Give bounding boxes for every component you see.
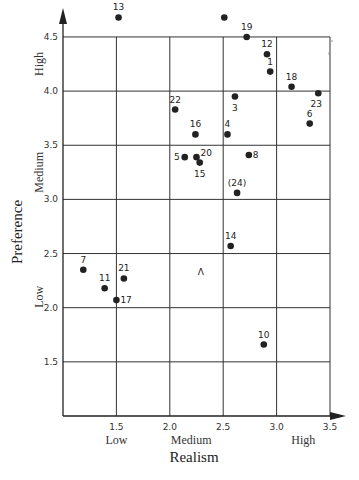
point-marker-icon — [113, 297, 120, 304]
data-point: 22 — [169, 95, 180, 113]
data-point: 5 — [174, 152, 188, 162]
point-label: 3 — [232, 103, 238, 113]
point-marker-icon — [232, 93, 239, 100]
point-marker-icon — [224, 131, 231, 138]
data-point: 15 — [194, 159, 205, 178]
y-tick-labels: 4.54.03.53.02.52.01.5 — [44, 32, 59, 367]
point-marker-icon — [101, 285, 108, 292]
point-marker-icon — [221, 14, 228, 21]
point-label: 5 — [174, 152, 180, 162]
point-label: 22 — [169, 95, 180, 105]
point-label: 10 — [258, 330, 270, 340]
data-point: 23 — [311, 90, 322, 109]
y-category-label: Low — [32, 286, 46, 308]
point-marker-icon — [243, 34, 250, 41]
point-marker-icon — [196, 159, 203, 166]
point-label: 4 — [225, 119, 231, 129]
point-marker-icon — [246, 152, 253, 159]
point-label: 12 — [261, 39, 272, 49]
data-point: 21 — [118, 263, 129, 281]
point-marker-icon — [80, 266, 87, 273]
point-label: 14 — [225, 231, 237, 241]
y-category-label: High — [32, 52, 46, 76]
scatter-chart: 1.52.02.53.03.5 4.54.03.53.02.52.01.5 Lo… — [0, 0, 359, 480]
point-marker-icon — [192, 131, 199, 138]
point-marker-icon — [181, 154, 188, 161]
point-marker-icon — [121, 275, 128, 282]
data-point: 1 — [267, 57, 274, 75]
y-axis-title: Preference — [9, 200, 25, 264]
data-point: 19 — [241, 22, 253, 40]
data-point: 7 — [80, 255, 87, 273]
y-tick-label: 2.5 — [44, 249, 58, 259]
point-marker-icon — [260, 341, 267, 348]
point-label: 19 — [241, 22, 253, 32]
data-point: 6 — [306, 109, 313, 127]
point-marker-icon — [234, 190, 241, 197]
data-point: 18 — [286, 72, 298, 90]
point-label: 1 — [267, 57, 273, 67]
point-label: 6 — [307, 109, 313, 119]
x-category-label: Low — [105, 433, 127, 447]
point-marker-icon — [172, 106, 179, 113]
x-tick-labels: 1.52.02.53.03.5 — [109, 422, 337, 432]
point-label: 20 — [201, 148, 213, 158]
data-point: 8 — [246, 150, 259, 160]
annotations: Λ — [198, 267, 205, 277]
point-label: 18 — [286, 72, 298, 82]
x-tick-label: 2.0 — [163, 422, 178, 432]
x-tick-label: 2.5 — [216, 422, 230, 432]
point-label: (24) — [228, 178, 246, 188]
point-marker-icon — [267, 68, 274, 75]
data-point: 12 — [261, 39, 272, 57]
annotation-caret: Λ — [198, 267, 205, 277]
data-point: 13 — [113, 2, 124, 20]
data-point: (24) — [228, 178, 246, 196]
point-label: 16 — [190, 119, 202, 129]
x-category-label: Medium — [171, 433, 212, 447]
x-axis-title: Realism — [169, 449, 218, 465]
x-tick-label: 1.5 — [109, 422, 123, 432]
x-tick-label: 3.5 — [323, 422, 337, 432]
data-point: 14 — [225, 231, 237, 249]
point-label: 11 — [99, 273, 110, 283]
x-tick-label: 3.0 — [269, 422, 284, 432]
data-point: 3 — [232, 93, 239, 112]
data-point — [221, 14, 228, 21]
data-point: 10 — [258, 330, 270, 348]
y-category-label: Medium — [32, 151, 46, 192]
y-tick-label: 4.0 — [44, 86, 59, 96]
point-label: 15 — [194, 169, 205, 179]
point-marker-icon — [288, 83, 295, 90]
point-label: 7 — [80, 255, 86, 265]
point-marker-icon — [315, 90, 322, 97]
point-marker-icon — [115, 14, 122, 21]
point-label: 21 — [118, 263, 129, 273]
y-axis-arrow-icon — [59, 8, 67, 24]
axes — [59, 8, 346, 420]
point-marker-icon — [227, 243, 234, 250]
data-point: 20 — [193, 148, 212, 160]
data-point: 4 — [224, 119, 231, 137]
x-category-labels: LowMediumHigh — [105, 433, 315, 447]
y-tick-label: 3.0 — [44, 194, 59, 204]
point-label: 8 — [253, 150, 259, 160]
point-marker-icon — [306, 120, 313, 127]
y-tick-label: 3.5 — [44, 140, 58, 150]
y-tick-label: 1.5 — [44, 357, 58, 367]
point-label: 13 — [113, 2, 124, 12]
data-point: 11 — [99, 273, 110, 291]
y-tick-label: 4.5 — [44, 32, 58, 42]
data-point: 16 — [190, 119, 202, 137]
x-axis-arrow-icon — [330, 412, 346, 420]
grid-lines — [63, 37, 330, 416]
x-category-label: High — [291, 433, 315, 447]
point-label: 17 — [120, 295, 131, 305]
